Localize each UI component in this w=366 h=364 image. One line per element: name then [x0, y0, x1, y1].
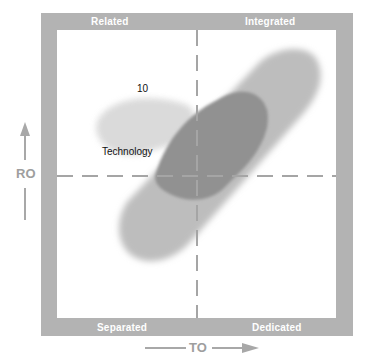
quadrant-label-integrated: Integrated	[245, 16, 295, 27]
annotation-number: 10	[137, 83, 148, 94]
arrow-up-icon	[20, 122, 30, 136]
quadrant-label-separated: Separated	[97, 322, 147, 333]
y-axis-label: RO	[16, 166, 36, 181]
annotation-technology: Technology	[102, 146, 153, 157]
quadrant-label-dedicated: Dedicated	[252, 322, 302, 333]
quadrant-label-related: Related	[91, 16, 129, 27]
x-axis-label: TO	[189, 340, 207, 355]
arrow-right-icon	[242, 343, 259, 353]
scatter-cloud	[57, 30, 336, 318]
plot-area: 10 Technology	[57, 30, 336, 318]
